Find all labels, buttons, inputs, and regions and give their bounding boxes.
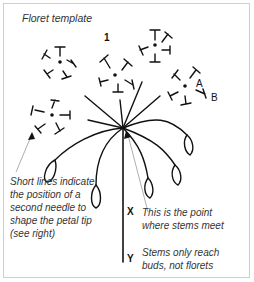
stem-line: [123, 82, 142, 128]
label-y: Y: [127, 253, 134, 264]
bud-stem: [96, 128, 123, 185]
label-b: B: [211, 92, 218, 103]
needle-mark-b: [196, 89, 206, 98]
stem-line: [120, 100, 123, 128]
bud: [184, 135, 192, 155]
arrowhead: [28, 132, 35, 140]
floret-center: [99, 55, 134, 92]
floret-mid-left: [31, 100, 70, 134]
label-1: 1: [104, 32, 110, 43]
note-short-lines: Short lines indicate the position of a s…: [10, 175, 98, 240]
bud-stem: [55, 128, 123, 160]
stem-line: [123, 96, 160, 128]
bud: [172, 165, 181, 185]
bud-stem: [123, 120, 187, 135]
bud: [145, 178, 153, 198]
note-stems: Stems only reach buds, not florets: [142, 246, 242, 272]
diagram-title: Floret template: [22, 12, 92, 24]
label-x: X: [127, 206, 134, 217]
note-point: This is the point where stems meet: [142, 206, 242, 232]
label-a: A: [196, 78, 203, 89]
